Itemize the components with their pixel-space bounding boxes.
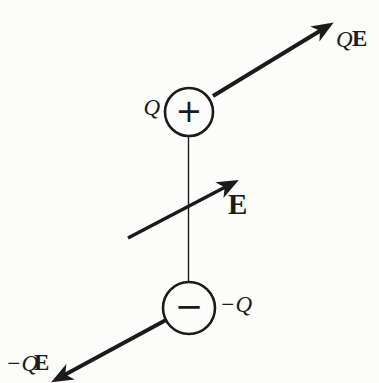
label-bottom-force-e: E <box>34 350 49 375</box>
label-field: E <box>228 188 247 220</box>
label-top-force-e: E <box>352 26 367 51</box>
label-bottom-charge: −Q <box>220 292 253 317</box>
label-top-force-q: Q <box>336 27 353 52</box>
plus-icon: + <box>176 92 203 130</box>
dipole-diagram: + − Q −Q Q E E −Q E <box>0 0 379 383</box>
force-arrow-top <box>213 26 328 96</box>
label-top-charge: Q <box>143 95 160 120</box>
minus-icon: − <box>175 286 204 326</box>
dipole-diagram-svg: + − Q −Q Q E E −Q E <box>0 0 379 383</box>
field-arrow <box>128 183 233 238</box>
force-arrow-bottom <box>57 320 166 379</box>
